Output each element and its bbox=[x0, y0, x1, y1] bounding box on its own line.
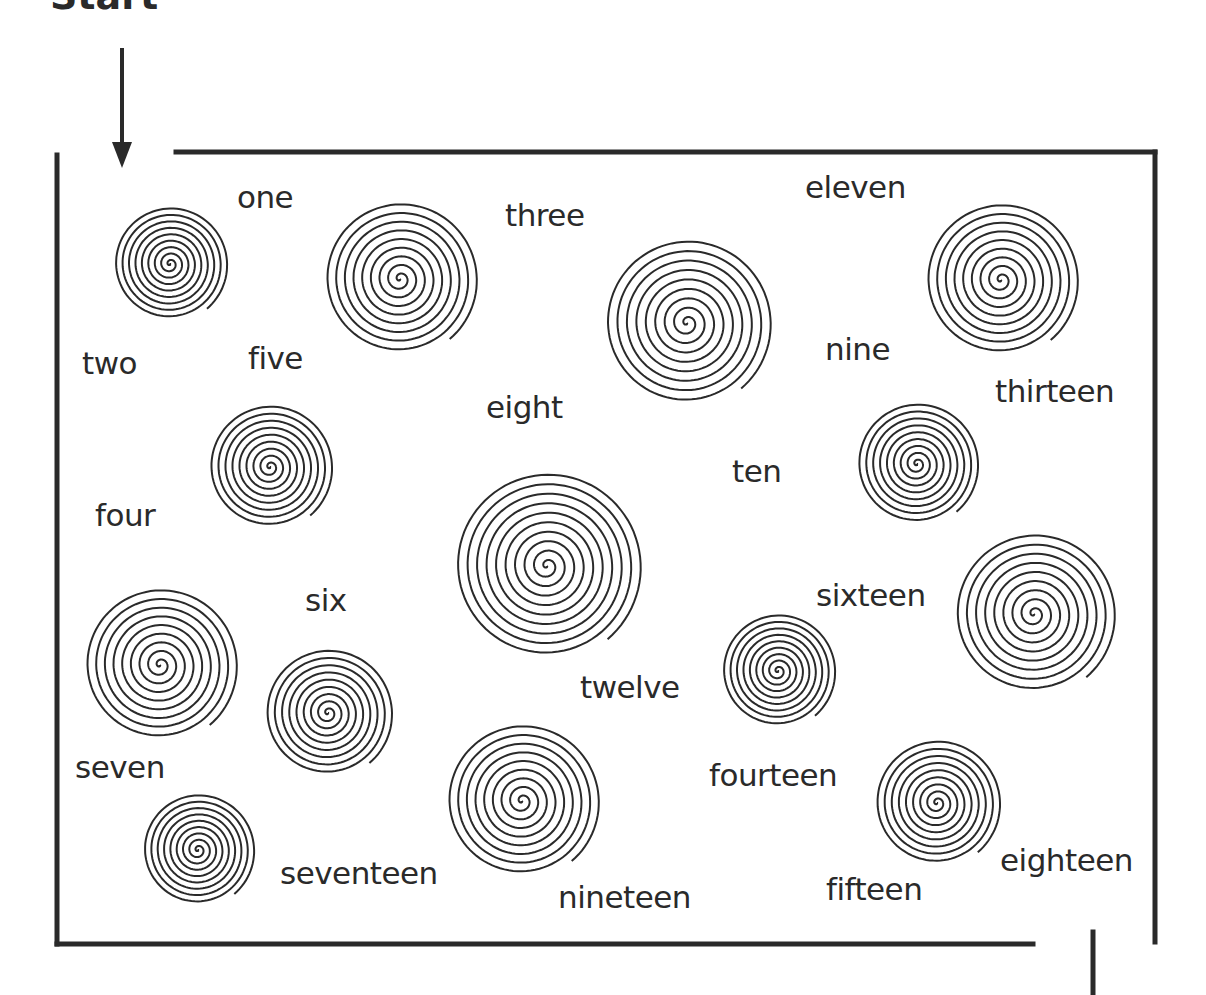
label-one[interactable]: one bbox=[237, 182, 293, 213]
spiral-icon bbox=[878, 742, 1000, 861]
spiral-icon bbox=[88, 590, 237, 735]
spiral-icon bbox=[929, 205, 1078, 350]
label-ten[interactable]: ten bbox=[732, 456, 781, 487]
spiral-icon bbox=[116, 209, 227, 317]
spiral-obstacles bbox=[88, 204, 1115, 901]
spiral-icon bbox=[212, 407, 333, 524]
label-fourteen[interactable]: fourteen bbox=[709, 760, 837, 791]
label-two[interactable]: two bbox=[82, 348, 137, 379]
spiral-icon bbox=[145, 796, 254, 902]
label-six[interactable]: six bbox=[305, 585, 347, 616]
spiral-icon bbox=[450, 726, 599, 871]
label-twelve[interactable]: twelve bbox=[580, 672, 680, 703]
spiral-icon bbox=[328, 204, 477, 349]
label-three[interactable]: three bbox=[505, 200, 585, 231]
label-four[interactable]: four bbox=[95, 500, 155, 531]
label-eleven[interactable]: eleven bbox=[805, 172, 906, 203]
label-nineteen[interactable]: nineteen bbox=[558, 882, 691, 913]
label-seven[interactable]: seven bbox=[75, 752, 165, 783]
spiral-icon bbox=[268, 651, 392, 772]
spiral-icon bbox=[608, 242, 771, 400]
label-sixteen[interactable]: sixteen bbox=[816, 580, 926, 611]
label-seventeen[interactable]: seventeen bbox=[280, 858, 438, 889]
label-eight[interactable]: eight bbox=[486, 392, 563, 423]
label-fifteen[interactable]: fifteen bbox=[826, 874, 922, 905]
spiral-icon bbox=[724, 616, 835, 724]
label-five[interactable]: five bbox=[248, 343, 303, 374]
spiral-icon bbox=[958, 536, 1115, 688]
label-thirteen[interactable]: thirteen bbox=[995, 376, 1114, 407]
spiral-icon bbox=[859, 405, 978, 520]
spiral-icon bbox=[458, 475, 641, 653]
label-eighteen[interactable]: eighteen bbox=[1000, 845, 1133, 876]
start-arrow-icon bbox=[112, 48, 132, 168]
label-nine[interactable]: nine bbox=[825, 334, 890, 365]
